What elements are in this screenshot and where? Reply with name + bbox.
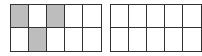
shaded-cell [47,5,65,28]
empty-cell [147,28,165,51]
empty-cell [29,5,47,28]
empty-cell [111,5,129,28]
empty-cell [183,28,201,51]
shaded-cell [29,28,47,51]
empty-cell [11,28,29,51]
empty-cell [129,5,147,28]
empty-cell [183,5,201,28]
empty-cell [47,28,65,51]
ten-frame-right [110,4,202,52]
empty-cell [129,28,147,51]
shaded-cell [11,5,29,28]
empty-cell [111,28,129,51]
empty-cell [165,5,183,28]
ten-frame-left [10,4,102,52]
empty-cell [83,28,101,51]
empty-cell [65,5,83,28]
empty-cell [165,28,183,51]
empty-cell [83,5,101,28]
empty-cell [65,28,83,51]
empty-cell [147,5,165,28]
